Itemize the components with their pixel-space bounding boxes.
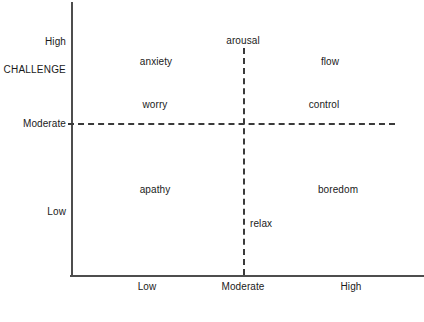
x-axis-line: [70, 275, 424, 277]
horizontal-divider-dashed-line: [68, 123, 395, 125]
y-axis-line: [71, 2, 73, 276]
divider-label-arousal: arousal: [226, 35, 260, 47]
quadrant-label-apathy: apathy: [140, 184, 171, 196]
quadrant-diagram: High CHALLENGE Moderate Low Low Moderate…: [0, 0, 424, 322]
vertical-divider-dashed-line: [243, 48, 245, 275]
quadrant-label-flow: flow: [321, 56, 339, 68]
quadrant-label-anxiety: anxiety: [140, 56, 172, 68]
x-axis-tick-high: High: [341, 281, 362, 293]
quadrant-label-boredom: boredom: [318, 184, 358, 196]
quadrant-label-control: control: [309, 99, 340, 111]
y-axis-title: CHALLENGE: [0, 64, 66, 76]
x-axis-tick-moderate: Moderate: [221, 281, 264, 293]
divider-label-relax: relax: [250, 218, 272, 230]
y-axis-tick-moderate: Moderate: [0, 118, 66, 130]
quadrant-label-worry: worry: [143, 99, 168, 111]
x-axis-tick-low: Low: [138, 281, 157, 293]
y-axis-tick-high: High: [0, 36, 66, 48]
y-axis-tick-low: Low: [0, 206, 66, 218]
